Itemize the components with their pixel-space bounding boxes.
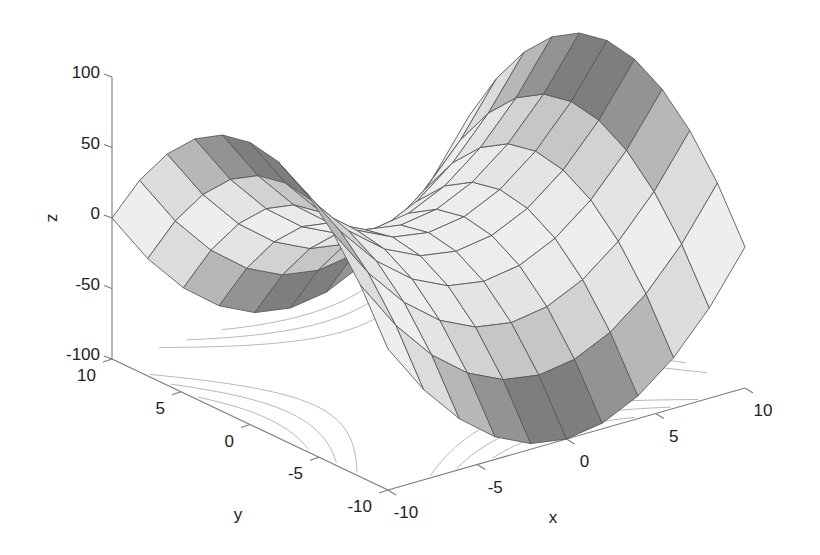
x-tick	[656, 414, 664, 419]
x-tick-label: 0	[580, 452, 589, 471]
x-tick-label: -5	[488, 478, 503, 497]
z-tick-label: 50	[81, 134, 100, 153]
z-tick	[104, 74, 112, 77]
contour-line	[150, 374, 357, 472]
z-tick-label: -50	[75, 275, 100, 294]
y-tick-label: 10	[77, 366, 96, 385]
y-tick-label: 5	[156, 399, 165, 418]
x-tick	[567, 439, 575, 444]
z-axis-label: z	[44, 214, 63, 223]
z-ticks: -100-50050100	[66, 63, 112, 364]
z-tick-label: 100	[72, 63, 100, 82]
contour-line	[198, 397, 308, 449]
contour-line	[171, 384, 337, 463]
y-tick	[103, 359, 112, 362]
x-tick-label: -10	[394, 503, 419, 522]
z-tick	[104, 145, 112, 148]
y-tick-label: -5	[288, 464, 303, 483]
x-tick-label: 5	[669, 427, 678, 446]
z-tick	[104, 215, 112, 218]
x-tick	[477, 465, 485, 470]
saddle-surface	[112, 33, 745, 444]
y-axis-label: y	[234, 505, 243, 524]
y-tick-label: 0	[225, 432, 234, 451]
z-tick-label: 0	[91, 204, 100, 223]
x-tick	[745, 388, 753, 393]
z-tick	[104, 356, 112, 359]
x-axis-label: x	[549, 508, 558, 527]
y-tick	[379, 490, 388, 493]
x-tick	[388, 490, 396, 495]
z-tick-label: -100	[66, 345, 100, 364]
surface-plot: -100-50050100 -10-50510 -10-50510 z y x	[0, 0, 820, 555]
y-ticks: -10-50510	[77, 359, 388, 516]
y-tick	[172, 392, 181, 395]
y-tick	[310, 457, 319, 460]
x-tick-label: 10	[754, 401, 773, 420]
z-tick	[104, 286, 112, 289]
y-tick-label: -10	[347, 497, 372, 516]
y-tick	[241, 425, 250, 428]
